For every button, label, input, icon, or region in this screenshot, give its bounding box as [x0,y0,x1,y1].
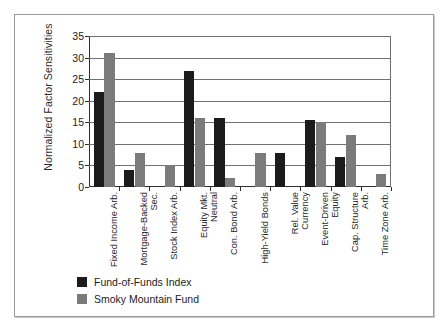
bar-0-1 [124,170,134,187]
x-tick-mark [180,187,181,191]
y-tick-label: 0 [78,181,84,193]
bar-0-6 [275,153,285,188]
bar-group [331,36,361,187]
bars-layer [89,36,391,187]
y-axis-title: Normalized Factor Sensitivities [42,17,54,177]
x-axis-label: Mortgage-Backed Sec. [139,192,159,270]
bar-group [210,36,240,187]
bar-0-3 [184,71,194,187]
bar-group [180,36,210,187]
legend-swatch-icon [77,294,87,304]
x-tick-mark [361,187,362,191]
bar-1-0 [104,53,114,187]
y-tick-label: 35 [72,30,84,42]
x-axis-label: Equity Mkt. Neutral [199,192,219,270]
bar-group [361,36,391,187]
x-axis-label: High-Yield Bonds [260,192,270,270]
x-tick-mark [270,187,271,191]
bar-chart: Normalized Factor Sensitivities 05101520… [15,15,435,318]
bar-1-3 [195,118,205,187]
x-tick-mark [119,187,120,191]
bar-1-1 [135,153,145,188]
bar-group [89,36,119,187]
y-tick-label: 5 [78,159,84,171]
legend-item: Smoky Mountain Fund [77,290,199,307]
y-tick-label: 10 [72,138,84,150]
legend-swatch-icon [77,277,87,287]
plot-area: 05101520253035 [89,36,391,187]
bar-group [270,36,300,187]
bar-0-0 [94,92,104,187]
bar-0-7 [305,120,315,187]
bar-group [240,36,270,187]
bar-1-7 [316,122,326,187]
bar-0-4 [214,118,224,187]
bar-1-9 [376,174,386,187]
x-tick-mark [300,187,301,191]
x-tick-mark [210,187,211,191]
legend-label: Smoky Mountain Fund [94,293,199,305]
bar-group [119,36,149,187]
bar-1-8 [346,135,356,187]
x-axis-label: Time Zone Arb. [380,192,390,270]
legend-label: Fund-of-Funds Index [94,276,191,288]
bar-1-4 [225,178,235,187]
bar-group [300,36,330,187]
x-axis-label: Rel. Value Currency [290,192,310,270]
x-tick-mark [240,187,241,191]
y-tick-mark [85,187,89,188]
bar-1-2 [165,165,175,187]
x-axis-label: Cap. Structure Arb. [350,192,370,270]
bar-group [149,36,179,187]
x-axis-label: Fixed Income Arb. [109,192,119,270]
legend-item: Fund-of-Funds Index [77,273,199,290]
x-axis-label: Con. Bond Arb. [229,192,239,270]
bar-1-5 [255,153,265,188]
x-tick-mark [149,187,150,191]
y-tick-label: 15 [72,116,84,128]
x-axis-labels: Fixed Income Arb.Mortgage-Backed Sec.Sto… [89,192,391,270]
y-tick-label: 20 [72,95,84,107]
x-tick-mark [391,187,392,191]
x-axis-label: Stock Index Arb. [169,192,179,270]
y-tick-label: 30 [72,52,84,64]
y-tick-label: 25 [72,73,84,85]
bar-0-8 [335,157,345,187]
x-axis-label: Event-Driven Equity [320,192,340,270]
chart-legend: Fund-of-Funds IndexSmoky Mountain Fund [77,273,199,307]
x-tick-mark [331,187,332,191]
figure-frame: Normalized Factor Sensitivities 05101520… [14,14,434,317]
